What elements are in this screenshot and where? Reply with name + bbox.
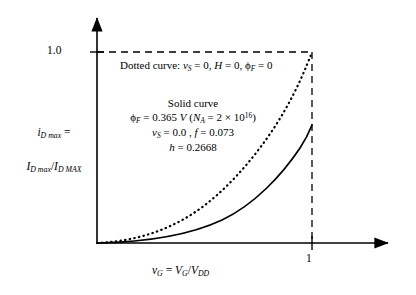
y-axis-label-equals: =: [61, 126, 70, 138]
y-axis-label-I2-subscript: D MAX: [58, 164, 82, 173]
x-axis-label-V2-subscript: DD: [198, 269, 209, 278]
dotted-curve-annotation: Dotted curve: vS = 0, H = 0, ϕF = 0: [120, 59, 273, 73]
solid-curve-h-equals: = 0.2668: [175, 141, 217, 153]
solid-curve-equation-vs-f: vS = 0.0 , f = 0.073: [113, 126, 273, 140]
dotted-curve-eq3: = 0: [255, 59, 272, 71]
y-axis-label-line-2: ID max/ID MAX: [10, 160, 98, 174]
x-axis-label: vG = VG/VDD: [152, 264, 209, 278]
x-axis-label-V2: V: [191, 264, 198, 276]
figure-container: 1.0 1 iD max = ID max/ID MAX vG = VG/VDD…: [0, 0, 416, 295]
solid-curve-annotation: Solid curve ϕF = 0.365 V (NA = 2 × 1016)…: [113, 97, 273, 155]
solid-curve-close-paren: ): [252, 111, 256, 123]
solid-curve-equation-phi: ϕF = 0.365 V (NA = 2 × 1016): [113, 111, 273, 125]
x-axis-label-equals: =: [163, 264, 175, 276]
solid-curve-title: Solid curve: [113, 97, 273, 110]
y-axis-tick-label-1.0: 1.0: [47, 44, 61, 57]
y-axis-label-line-1: iD max =: [37, 126, 70, 138]
dotted-curve-lead-text: Dotted curve:: [120, 59, 183, 71]
solid-curve-f-equals: = 0.073: [197, 126, 233, 138]
x-axis-label-V: V: [175, 264, 182, 276]
y-axis-label: iD max = ID max/ID MAX: [10, 126, 98, 173]
dotted-curve-eq1: = 0,: [192, 59, 215, 71]
y-axis-label-i-subscript: D max: [41, 131, 62, 140]
y-axis-label-I1-subscript: D max: [30, 164, 51, 173]
solid-curve-v-equals: = 0.0 ,: [161, 126, 195, 138]
solid-curve-N-equals: = 2 × 10: [205, 111, 245, 123]
dotted-curve-eq2: = 0,: [222, 59, 245, 71]
solid-curve-phi-equals: = 0.365: [141, 111, 180, 123]
solid-curve-equation-h: h = 0.2668: [113, 141, 273, 154]
x-axis-tick-label-1: 1: [306, 252, 312, 265]
